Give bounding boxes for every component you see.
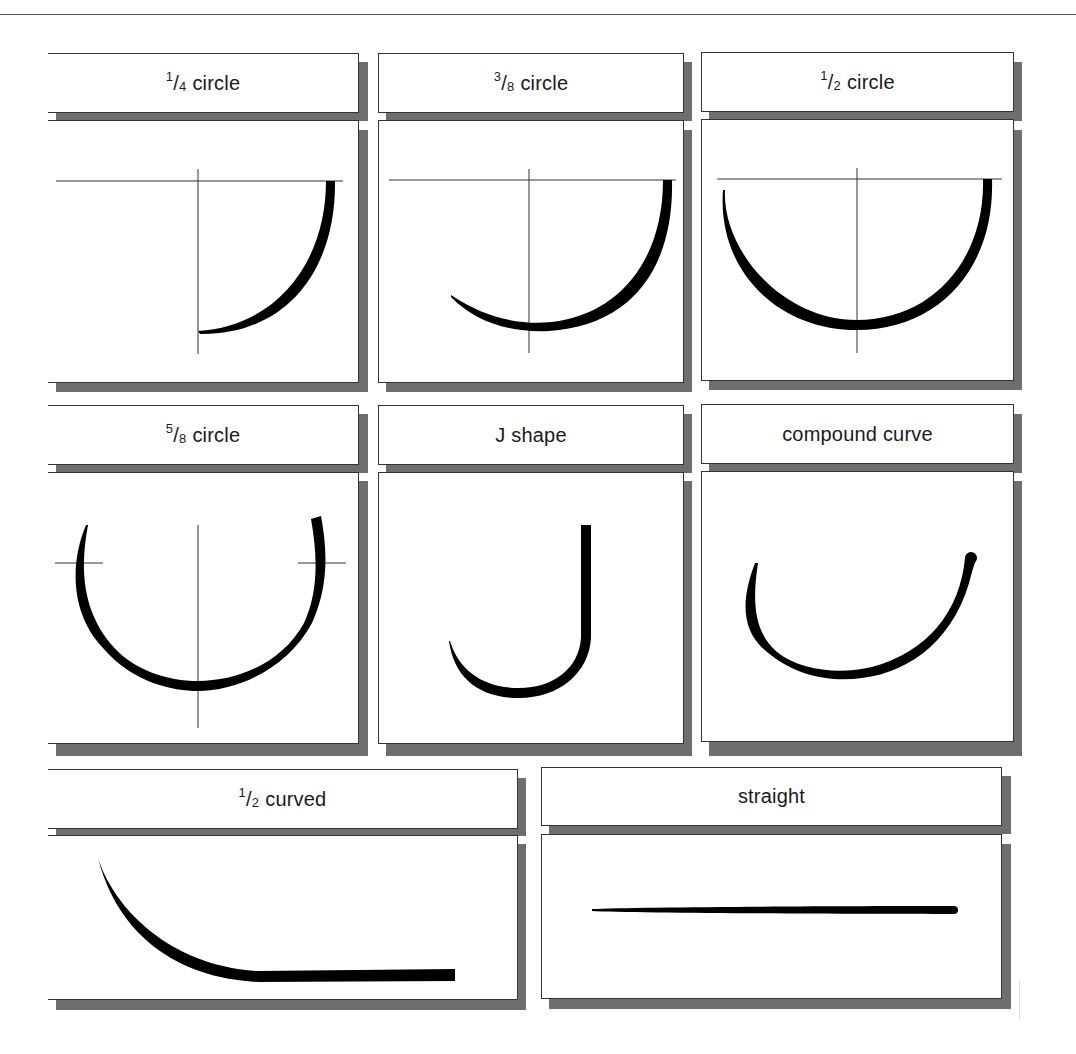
panel-label: compound curve [782,423,933,446]
panel-label: circle [192,424,240,447]
panel-header: 1/2curved [48,769,518,829]
needle-shape [449,525,591,698]
panel-body [48,120,359,383]
panel-body [541,834,1002,999]
fraction: 3/8 [494,72,515,95]
needle-shape [76,516,326,691]
panel-header: 1/2circle [701,52,1014,112]
panel-label: circle [520,72,568,95]
panel-label: curved [265,788,326,811]
panel-label: J shape [495,424,566,447]
panel-body [48,835,518,1000]
panel-header: straight [541,767,1002,826]
panel-header: J shape [378,405,684,465]
fraction: 5/8 [166,424,187,447]
scan-artifact [1019,980,1034,1020]
panel-label: circle [847,71,895,94]
panel-header: compound curve [701,404,1014,464]
panel-label: circle [192,72,240,95]
half-curved-needle-figure [48,836,518,1001]
fraction: 1/2 [239,788,260,811]
panel-header: 1/4circle [48,53,359,113]
panel-label: straight [738,785,805,808]
fraction: 1/4 [166,72,187,95]
panel-body [378,120,684,383]
j-shape-needle-figure [379,473,685,745]
needle-shape [746,557,977,679]
needle-shape [198,181,335,334]
panel-body [378,472,684,744]
panel-body [48,472,359,744]
needle-shape [592,906,958,914]
fraction: 1/2 [820,71,841,94]
top-rule [0,14,1076,15]
panel-header: 3/8circle [378,53,684,113]
straight-needle-figure [542,835,1003,1000]
panel-body [701,471,1014,742]
panel-body [701,119,1014,381]
compound-curve-needle-figure [702,472,1015,743]
needle-shape [451,180,672,331]
panel-header: 5/8circle [48,405,359,465]
three-eighths-circle-needle-figure [379,121,685,384]
needle-shape [98,858,455,982]
half-circle-needle-figure [702,120,1015,382]
five-eighths-circle-needle-figure [48,473,359,745]
quarter-circle-needle-figure [48,121,359,384]
needle-end [965,552,977,564]
